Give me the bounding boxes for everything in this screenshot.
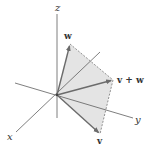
w-vector-label: w	[63, 31, 72, 41]
z-axis-label: z	[54, 2, 61, 13]
x-axis-label: x	[7, 131, 13, 142]
y-axis-label: y	[134, 114, 141, 125]
origin-point	[56, 94, 58, 96]
vector-diagram: z y x w v + w v	[0, 0, 154, 146]
v-plus-w-label: v + w	[116, 75, 144, 85]
v-vector-label: v	[96, 136, 103, 146]
